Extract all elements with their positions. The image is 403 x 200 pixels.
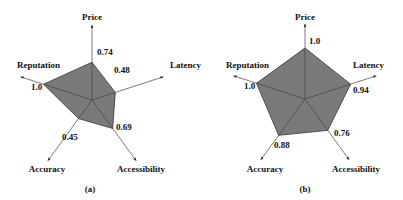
radar-chart-a: PriceLatencyAccessibilityAccuracyReputat… [17, 12, 201, 194]
axis-label-accuracy: Accuracy [29, 164, 66, 174]
value-label-accuracy: 0.88 [274, 140, 290, 150]
value-label-accuracy: 0.45 [62, 132, 78, 142]
chart-caption: (b) [300, 184, 311, 194]
axis-label-reputation: Reputation [226, 60, 269, 70]
radar-charts: PriceLatencyAccessibilityAccuracyReputat… [0, 0, 403, 200]
axis-label-latency: Latency [170, 60, 201, 70]
chart-caption: (a) [85, 184, 96, 194]
value-label-accessibility: 0.69 [116, 122, 132, 132]
value-label-price: 1.0 [309, 36, 321, 46]
value-label-price: 0.74 [97, 47, 113, 57]
axis-label-accuracy: Accuracy [247, 164, 284, 174]
value-label-latency: 0.48 [114, 65, 130, 75]
radar-chart-b: PriceLatencyAccessibilityAccuracyReputat… [226, 12, 384, 194]
value-label-reputation: 1.0 [31, 82, 43, 92]
axis-label-accessibility: Accessibility [332, 164, 380, 174]
data-polygon [256, 48, 350, 135]
axis-label-accessibility: Accessibility [117, 164, 165, 174]
value-label-latency: 0.94 [353, 85, 369, 95]
data-polygon [43, 62, 115, 128]
axis-label-price: Price [295, 12, 315, 22]
axis-label-latency: Latency [353, 60, 384, 70]
axis-label-price: Price [82, 12, 102, 22]
value-label-reputation: 1.0 [244, 81, 256, 91]
value-label-accessibility: 0.76 [334, 128, 350, 138]
axis-label-reputation: Reputation [17, 60, 60, 70]
